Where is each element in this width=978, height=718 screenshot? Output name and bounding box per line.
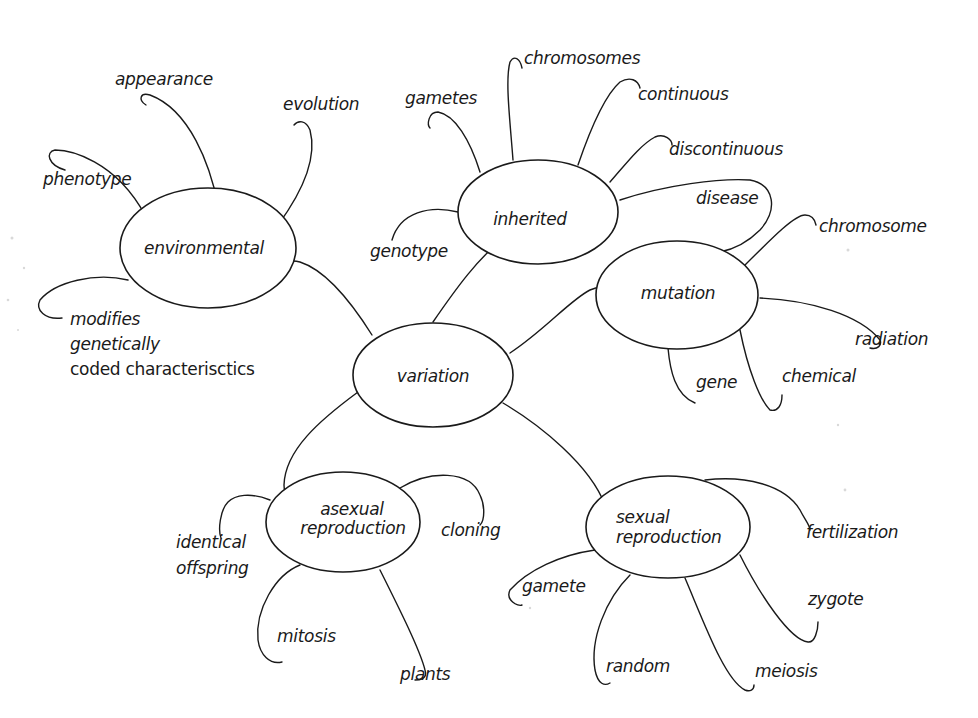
node-inherited[interactable]: inherited — [458, 160, 618, 264]
leaf-radiation: radiation — [855, 329, 928, 349]
leaf-random: random — [606, 656, 670, 676]
leaf-discontinuous: discontinuous — [669, 139, 783, 159]
node-label: inherited — [493, 209, 567, 229]
leaf-offspring: offspring — [176, 558, 249, 578]
leaf-disease: disease — [696, 188, 758, 208]
node-label: environmental — [144, 238, 264, 258]
node-asexual-reproduction[interactable]: asexual reproduction — [266, 472, 420, 572]
node-sexual-reproduction[interactable]: sexual reproduction — [586, 476, 750, 578]
leaf-evolution: evolution — [283, 94, 359, 114]
leaf-continuous: continuous — [638, 84, 729, 104]
node-environmental[interactable]: environmental — [120, 188, 296, 308]
leaf-cloning: cloning — [441, 520, 501, 540]
leaf-genotype: genotype — [370, 241, 448, 261]
node-variation[interactable]: variation — [353, 323, 513, 427]
node-label-line-1: asexual — [320, 499, 384, 519]
leaf-genetically: genetically — [70, 334, 161, 354]
leaf-chromosomes: chromosomes — [524, 48, 641, 68]
node-label: variation — [397, 366, 469, 386]
leaf-gamete: gamete — [522, 576, 586, 596]
leaf-identical: identical — [176, 532, 247, 552]
leaf-chromosome: chromosome — [819, 216, 927, 236]
leaf-zygote: zygote — [807, 589, 864, 609]
mind-map-canvas: variation environmental inherited mutati… — [0, 0, 978, 718]
leaf-plants: plants — [399, 664, 451, 684]
node-label: mutation — [641, 283, 716, 303]
leaf-coded-characteristics: coded characterisctics — [70, 359, 255, 379]
leaf-mitosis: mitosis — [277, 626, 336, 646]
leaf-chemical: chemical — [782, 366, 857, 386]
leaf-appearance: appearance — [115, 69, 213, 89]
node-mutation[interactable]: mutation — [596, 241, 758, 349]
leaf-modifies: modifies — [70, 309, 141, 329]
leaf-phenotype: phenotype — [42, 169, 131, 189]
node-label-line-2: reproduction — [616, 527, 722, 547]
leaf-fertilization: fertilization — [806, 522, 898, 542]
node-label-line-1: sexual — [616, 507, 670, 527]
leaf-meiosis: meiosis — [755, 661, 818, 681]
leaf-gametes: gametes — [405, 88, 478, 108]
leaf-gene: gene — [696, 372, 737, 392]
node-label-line-2: reproduction — [300, 518, 406, 538]
